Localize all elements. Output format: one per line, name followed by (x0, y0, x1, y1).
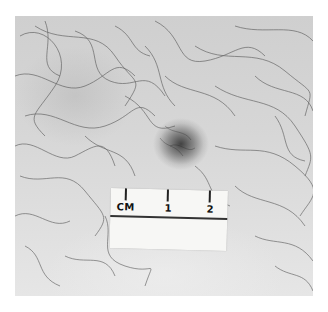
ruler-tick-2 (209, 191, 211, 203)
skin-photograph (15, 16, 313, 296)
ruler-tick-1 (167, 189, 169, 201)
ruler-unit-label: CM (116, 201, 135, 212)
ruler-tick-label-2: 2 (206, 204, 214, 215)
ruler-tick-0 (125, 188, 127, 200)
hair-strands (15, 16, 313, 296)
cm-scale-ruler: CM 1 2 (109, 188, 228, 251)
ruler-divider (110, 215, 227, 220)
ruler-tick-label-1: 1 (164, 202, 172, 213)
